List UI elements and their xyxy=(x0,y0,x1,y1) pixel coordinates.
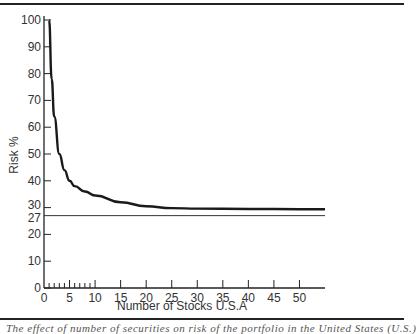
x-tick-label: 0 xyxy=(41,291,48,305)
x-tick-label: 50 xyxy=(293,291,307,305)
y-axis-label: Risk % xyxy=(7,136,21,174)
y-tick-label: 70 xyxy=(28,93,42,107)
bottom-rule xyxy=(0,318,404,320)
y-tick-label: 30 xyxy=(28,198,42,212)
y-tick-label: 27 xyxy=(28,211,42,225)
x-tick-label: 5 xyxy=(66,291,73,305)
x-tick-label: 45 xyxy=(267,291,281,305)
y-tick-label: 60 xyxy=(28,120,42,134)
series xyxy=(44,20,325,216)
y-tick-label: 100 xyxy=(21,13,41,27)
y-tick-label: 20 xyxy=(28,227,42,241)
y-axis-ticks: 010202730405060708090100 xyxy=(21,13,51,295)
y-tick-label: 50 xyxy=(28,147,42,161)
portfolio-risk-curve xyxy=(49,20,325,209)
y-tick-label: 10 xyxy=(28,254,42,268)
y-tick-label: 80 xyxy=(28,67,42,81)
figure-caption: The effect of number of securities on ri… xyxy=(6,322,416,334)
axes xyxy=(44,16,325,288)
y-tick-label: 40 xyxy=(28,174,42,188)
x-tick-label: 10 xyxy=(88,291,102,305)
x-axis-label: Number of Stocks U.S.A xyxy=(117,299,247,313)
y-tick-label: 90 xyxy=(28,40,42,54)
